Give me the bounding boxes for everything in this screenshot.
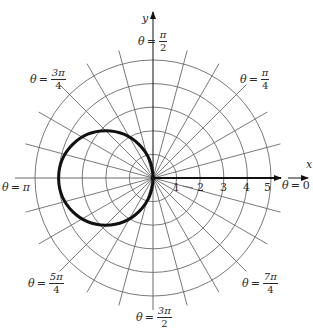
fraction: π 2 (159, 30, 168, 53)
angle-label-3pi-over-4: θ = 3π 4 (30, 68, 66, 91)
r-tick-5: 5 (264, 182, 271, 193)
polar-radial-line (153, 144, 281, 178)
r-tick-4: 4 (243, 182, 250, 193)
polar-radial-line (39, 178, 153, 244)
fraction: 3π 2 (157, 306, 172, 329)
polar-radial-line (25, 178, 153, 212)
polar-radial-line (39, 112, 153, 178)
polar-radial-line (153, 64, 219, 178)
y-axis-label: y (142, 12, 148, 25)
angle-label-7pi-over-4: θ = 7π 4 (242, 272, 278, 295)
axes (15, 12, 308, 310)
angle-label-5pi-over-4: θ = 5π 4 (28, 272, 64, 295)
polar-radial-line (153, 178, 187, 306)
r-tick-2: 2 (197, 182, 204, 193)
polar-radial-line (87, 64, 153, 178)
polar-radial-line (153, 178, 219, 292)
angle-label-pi: θ = π (2, 182, 30, 193)
polar-radial-line (153, 50, 187, 178)
polar-radial-line (153, 112, 267, 178)
r-tick-3: 3 (220, 182, 227, 193)
angle-label-3pi-over-2: θ = 3π 2 (136, 306, 172, 329)
angle-label-pi-over-2: θ = π 2 (138, 30, 167, 53)
angle-label-0: θ = 0 (282, 180, 310, 191)
fraction: 7π 4 (263, 272, 278, 295)
x-axis-label: x (306, 158, 312, 171)
polar-radial-line (153, 178, 267, 244)
fraction: π 4 (261, 68, 270, 91)
polar-radial-line (87, 178, 153, 292)
polar-radial-line (153, 85, 246, 178)
r-tick-1: 1 (173, 182, 180, 193)
polar-radial-line (25, 144, 153, 178)
fraction: 5π 4 (49, 272, 64, 295)
fraction: 3π 4 (51, 68, 66, 91)
angle-label-pi-over-4: θ = π 4 (240, 68, 269, 91)
